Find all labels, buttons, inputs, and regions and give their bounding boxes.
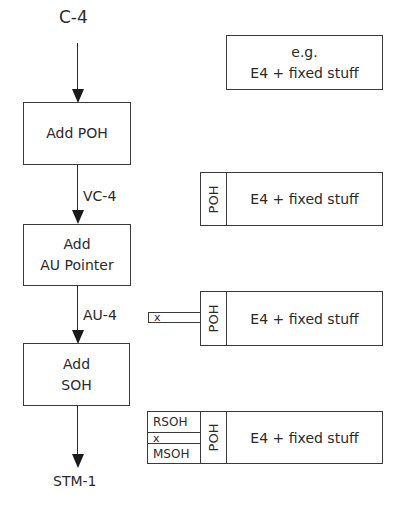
frame-stm1-pointer: x bbox=[148, 433, 200, 444]
arrow-soh-to-stm1 bbox=[77, 406, 78, 456]
frame-au4-pointer: x bbox=[148, 312, 201, 323]
output-label-stm1: STM-1 bbox=[53, 473, 96, 489]
frame-stm1-rsoh: RSOH bbox=[148, 412, 200, 433]
arrowhead-icon bbox=[72, 210, 84, 224]
frame-au4-poh: POH bbox=[201, 292, 227, 345]
arrowhead-icon bbox=[72, 454, 84, 468]
step-add-au-pointer-line1: Add bbox=[63, 234, 90, 255]
frame-au4: POH E4 + fixed stuff bbox=[200, 291, 383, 346]
arrowhead-icon bbox=[72, 330, 84, 344]
arrowhead-icon bbox=[72, 89, 84, 103]
arrow-pointer-to-soh bbox=[77, 286, 78, 331]
step-add-au-pointer: Add AU Pointer bbox=[23, 224, 131, 286]
edge-label-au4: AU-4 bbox=[83, 307, 117, 323]
edge-label-vc4: VC-4 bbox=[83, 188, 116, 204]
frame-vc4-payload: E4 + fixed stuff bbox=[227, 173, 382, 225]
arrow-c4-to-poh bbox=[77, 43, 78, 91]
step-add-poh: Add POH bbox=[23, 102, 131, 165]
step-add-poh-label: Add POH bbox=[46, 123, 108, 144]
arrow-poh-to-pointer bbox=[77, 165, 78, 211]
frame-example-line2: E4 + fixed stuff bbox=[250, 63, 358, 84]
frame-vc4: POH E4 + fixed stuff bbox=[200, 172, 383, 226]
input-label-c4: C-4 bbox=[59, 7, 88, 27]
frame-stm1-msoh: MSOH bbox=[148, 444, 200, 464]
step-add-soh: Add SOH bbox=[23, 343, 130, 406]
frame-stm1-soh-column: RSOH x MSOH bbox=[148, 412, 201, 463]
poh-label: POH bbox=[206, 424, 221, 452]
frame-example: e.g. E4 + fixed stuff bbox=[226, 35, 383, 90]
frame-stm1: RSOH x MSOH POH E4 + fixed stuff bbox=[147, 411, 383, 464]
frame-vc4-poh: POH bbox=[201, 173, 227, 225]
frame-stm1-poh: POH bbox=[201, 412, 227, 463]
step-add-soh-line2: SOH bbox=[61, 375, 91, 396]
step-add-soh-line1: Add bbox=[63, 354, 90, 375]
frame-stm1-payload: E4 + fixed stuff bbox=[227, 412, 382, 463]
frame-au4-payload: E4 + fixed stuff bbox=[227, 292, 382, 345]
poh-label: POH bbox=[206, 305, 221, 333]
step-add-au-pointer-line2: AU Pointer bbox=[40, 255, 113, 276]
poh-label: POH bbox=[206, 185, 221, 213]
frame-example-line1: e.g. bbox=[291, 42, 317, 63]
